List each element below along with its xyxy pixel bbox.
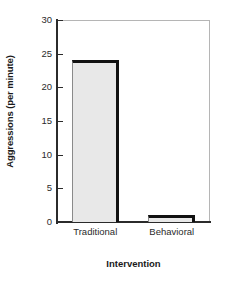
y-axis-tick-label: 0 [5,217,57,227]
y-axis-tick-labels: 051015202530 [0,0,57,284]
y-axis-tick [58,121,63,122]
y-axis-tick [58,222,63,223]
bar-chart-figure: Aggressions (per minute) 051015202530 Tr… [0,0,235,284]
y-axis-tick-label: 30 [5,15,57,25]
x-axis-category-label: Behavioral [134,226,211,237]
y-axis-tick-label: 10 [5,150,57,160]
y-axis-tick [58,54,63,55]
x-axis-title: Intervention [57,258,210,269]
y-axis-tick-label: 15 [5,116,57,126]
bar-traditional [72,60,119,222]
x-axis-category-label: Traditional [57,226,134,237]
y-axis-tick [58,155,63,156]
y-axis-tick-label: 25 [5,49,57,59]
y-axis-tick-label: 5 [5,184,57,194]
y-axis-tick [58,87,63,88]
y-axis-tick [58,20,63,21]
y-axis-tick-label: 20 [5,83,57,93]
bar-behavioral [148,215,195,222]
y-axis-tick [58,188,63,189]
